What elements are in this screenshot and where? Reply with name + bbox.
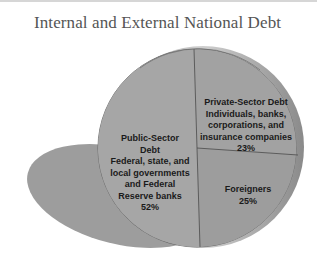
label-public-sector: Public-Sector Debt Federal, state, and l… (110, 133, 190, 214)
label-public-line: Reserve banks (110, 191, 190, 203)
label-foreigners-title: Foreigners (208, 184, 288, 196)
label-private-sector: Private-Sector Debt Individuals, banks, … (196, 97, 296, 155)
label-foreigners: Foreigners 25% (208, 184, 288, 207)
label-public-title: Public-Sector Debt (110, 133, 190, 156)
label-public-line: local governments (110, 168, 190, 180)
label-private-line: insurance companies (196, 132, 296, 144)
label-private-percent: 23% (196, 143, 296, 155)
label-private-line: Individuals, banks, (196, 109, 296, 121)
label-public-line: and Federal (110, 179, 190, 191)
label-public-percent: 52% (110, 202, 190, 214)
label-public-line: Federal, state, and (110, 156, 190, 168)
label-private-title: Private-Sector Debt (196, 97, 296, 109)
label-foreigners-percent: 25% (208, 196, 288, 208)
label-private-line: corporations, and (196, 120, 296, 132)
